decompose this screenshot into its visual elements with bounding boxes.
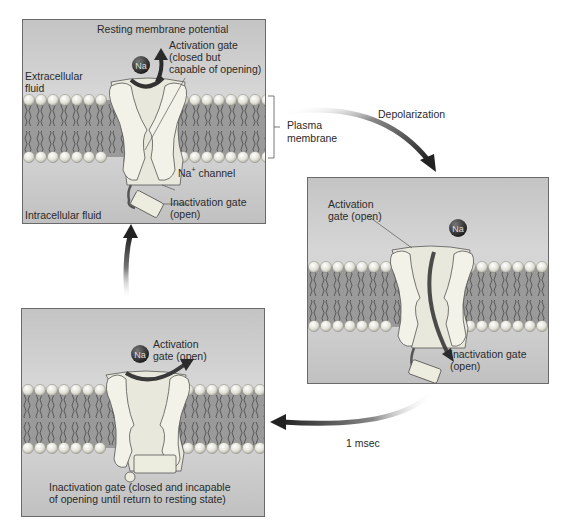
- transition-arrows: [0, 0, 568, 529]
- return-arrow: [126, 236, 130, 300]
- depolarization-label: Depolarization: [378, 108, 445, 121]
- one-msec-arrow: [282, 390, 434, 423]
- time-label: 1 msec: [346, 437, 380, 450]
- na-channel-diagram: Na Resting membrane potential Activation…: [0, 0, 568, 529]
